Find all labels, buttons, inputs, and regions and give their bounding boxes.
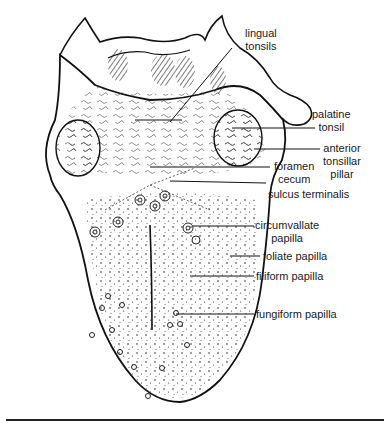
label-fungiform-papilla: fungiform papilla <box>256 308 337 321</box>
divider-rule <box>6 419 384 421</box>
tonsil-lobe <box>210 66 226 94</box>
label-filiform-papilla: filiform papilla <box>256 270 323 283</box>
right-palatine-tonsil <box>214 110 262 166</box>
label-anterior-tonsillar-pillar: anterior tonsillar pillar <box>323 142 361 181</box>
label-palatine-tonsil: palatine tonsil <box>312 108 351 134</box>
left-palatine-tonsil <box>56 120 100 176</box>
label-circumvallate-papilla: circumvallate papilla <box>255 219 319 245</box>
tonsil-lobe <box>151 54 175 86</box>
tonsil-lobe <box>108 49 128 81</box>
tonsil-lobe <box>175 56 195 88</box>
label-foramen-cecum: foramen cecum <box>274 160 314 186</box>
label-lingual-tonsils: lingual tonsils <box>245 27 277 53</box>
tongue-diagram <box>0 0 384 428</box>
label-foliate-papilla: foliate papilla <box>263 250 327 263</box>
label-sulcus-terminalis: sulcus terminalis <box>268 188 349 201</box>
